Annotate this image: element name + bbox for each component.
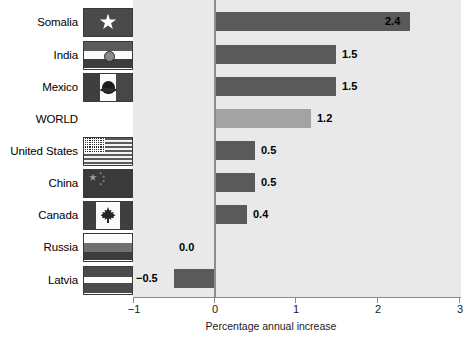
star-icon bbox=[100, 14, 117, 31]
category-row-world: WORLD bbox=[0, 103, 133, 135]
category-row-china: China bbox=[0, 167, 133, 199]
china-flag bbox=[83, 169, 133, 198]
bar-india bbox=[214, 45, 336, 64]
maple-leaf-icon bbox=[101, 207, 116, 223]
star-icon bbox=[89, 174, 97, 182]
bar-china bbox=[214, 173, 255, 192]
bar-united-states bbox=[214, 141, 255, 160]
category-axis: Somalia India Mexico WORLD United Stat bbox=[0, 0, 133, 297]
bar-world bbox=[214, 109, 311, 128]
x-tick-label-3: 3 bbox=[457, 303, 463, 315]
category-row-latvia: Latvia bbox=[0, 264, 133, 296]
eagle-emblem-icon bbox=[102, 81, 115, 94]
russia-flag bbox=[83, 233, 133, 262]
category-row-canada: Canada bbox=[0, 199, 133, 231]
zero-reference-line bbox=[214, 0, 216, 297]
bar-value-world: 1.2 bbox=[317, 109, 332, 128]
bar-value-canada: 0.4 bbox=[253, 205, 268, 224]
category-label-united-states: United States bbox=[10, 145, 83, 157]
x-axis-line bbox=[133, 297, 461, 298]
us-flag bbox=[83, 137, 133, 166]
somalia-flag bbox=[83, 8, 133, 37]
bar-value-mexico: 1.5 bbox=[342, 77, 357, 96]
bar-value-india: 1.5 bbox=[342, 45, 357, 64]
us-canton bbox=[84, 138, 105, 153]
chakra-icon bbox=[104, 51, 115, 62]
bar-value-somalia: 2.4 bbox=[385, 12, 400, 31]
latvia-flag bbox=[83, 266, 133, 295]
canada-flag bbox=[83, 201, 133, 230]
category-row-somalia: Somalia bbox=[0, 6, 133, 38]
bar-value-china: 0.5 bbox=[261, 173, 276, 192]
category-row-united-states: United States bbox=[0, 135, 133, 167]
x-tick-label-2: 2 bbox=[375, 303, 381, 315]
bar-latvia bbox=[174, 269, 214, 288]
bar-value-russia: 0.0 bbox=[179, 238, 194, 257]
category-label-world: WORLD bbox=[36, 113, 83, 125]
category-label-china: China bbox=[48, 177, 83, 189]
category-row-russia: Russia bbox=[0, 231, 133, 263]
mexico-flag bbox=[83, 73, 133, 102]
x-tick-label-1: 1 bbox=[293, 303, 299, 315]
bar-mexico bbox=[214, 77, 336, 96]
bar-value-latvia: −0.5 bbox=[136, 269, 158, 288]
category-label-somalia: Somalia bbox=[37, 16, 83, 28]
category-label-latvia: Latvia bbox=[48, 274, 83, 286]
bar-canada bbox=[214, 205, 247, 224]
x-tick-label-0: 0 bbox=[212, 303, 218, 315]
category-label-mexico: Mexico bbox=[42, 81, 83, 93]
bar-value-united-states: 0.5 bbox=[261, 141, 276, 160]
category-label-india: India bbox=[54, 49, 83, 61]
category-row-india: India bbox=[0, 39, 133, 71]
category-label-russia: Russia bbox=[43, 241, 83, 253]
x-axis-title-text: Percentage annual increase bbox=[136, 320, 337, 332]
india-flag bbox=[83, 41, 133, 70]
chart-figure: Somalia India Mexico WORLD United Stat bbox=[0, 0, 472, 340]
category-label-canada: Canada bbox=[38, 209, 83, 221]
bar-somalia bbox=[214, 12, 410, 31]
category-row-mexico: Mexico bbox=[0, 71, 133, 103]
x-axis-title: Percentage annual increase bbox=[0, 320, 472, 332]
x-tick-label-neg1: −1 bbox=[128, 303, 141, 315]
